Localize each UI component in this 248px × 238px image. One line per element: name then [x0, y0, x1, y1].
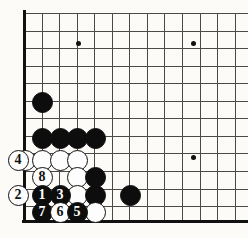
- grid-line-horizontal: [24, 101, 248, 102]
- black-stone-row4-f: [120, 185, 141, 206]
- grid-line-vertical: [235, 13, 236, 220]
- move-5-black: 5: [67, 202, 88, 223]
- grid-line-horizontal: [24, 118, 248, 119]
- stone-label: 6: [57, 205, 64, 219]
- grid-line-horizontal: [24, 48, 248, 49]
- stone-label: 5: [74, 205, 81, 219]
- grid-line-vertical: [112, 13, 113, 220]
- stone-label: 7: [39, 205, 46, 219]
- star-point: [191, 155, 196, 160]
- black-stone-upper-left: [32, 92, 53, 113]
- star-point: [76, 41, 81, 46]
- grid-line-horizontal: [24, 171, 248, 172]
- stone-label: 2: [15, 188, 22, 202]
- grid-line-horizontal: [24, 83, 248, 84]
- grid-line-vertical: [217, 13, 218, 220]
- go-diagram-root: 42813765: [0, 0, 248, 238]
- grid-line-vertical: [164, 13, 165, 220]
- grid-line-vertical: [182, 13, 183, 220]
- stone-label: 8: [39, 170, 46, 184]
- grid-line-vertical: [200, 13, 201, 220]
- grid-line-vertical: [147, 13, 148, 220]
- stone-label: 1: [39, 188, 46, 202]
- white-stone-row5-d: [85, 202, 106, 223]
- grid-line-horizontal: [24, 31, 248, 32]
- go-board: 42813765: [0, 0, 248, 238]
- stone-label: 3: [57, 188, 64, 202]
- move-4-white: 4: [8, 150, 29, 171]
- black-stone-wall-d: [85, 128, 106, 149]
- grid-line-horizontal: [24, 13, 248, 14]
- grid-line-horizontal: [24, 66, 248, 67]
- move-2-white: 2: [8, 185, 29, 206]
- stone-label: 4: [15, 153, 22, 167]
- star-point: [191, 41, 196, 46]
